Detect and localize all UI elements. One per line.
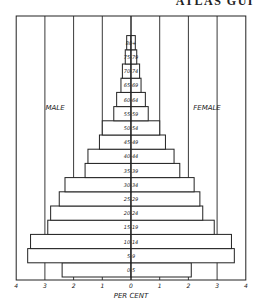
x-tick-label: 2 xyxy=(72,282,76,289)
female-bar xyxy=(131,249,234,263)
female-label: FEMALE xyxy=(193,104,221,112)
x-tick-label: 2 xyxy=(186,282,190,289)
male-bar xyxy=(65,178,131,192)
male-bar xyxy=(62,263,131,277)
female-bar xyxy=(131,234,231,248)
female-bar xyxy=(131,192,200,206)
female-bar xyxy=(131,163,180,177)
x-tick-label: 1 xyxy=(100,282,104,289)
male-bar xyxy=(51,206,131,220)
x-axis-label: PER CENT xyxy=(114,292,149,300)
population-pyramid-chart: 0-55-910-1415-1920-2425-2930-3435-3940-4… xyxy=(0,0,258,304)
male-bar xyxy=(59,192,131,206)
female-bar xyxy=(131,263,191,277)
male-bar xyxy=(31,234,131,248)
x-tick-label: 0 xyxy=(129,282,133,289)
x-tick-label: 4 xyxy=(14,282,18,289)
x-tick-label: 1 xyxy=(158,282,162,289)
x-tick-label: 3 xyxy=(215,282,219,289)
female-bar xyxy=(131,178,194,192)
x-tick-label: 4 xyxy=(244,282,248,289)
male-bar xyxy=(48,220,131,234)
x-tick-label: 3 xyxy=(43,282,47,289)
female-bar xyxy=(131,220,214,234)
male-label: MALE xyxy=(45,104,65,112)
female-bar xyxy=(131,206,203,220)
male-bar xyxy=(28,249,131,263)
